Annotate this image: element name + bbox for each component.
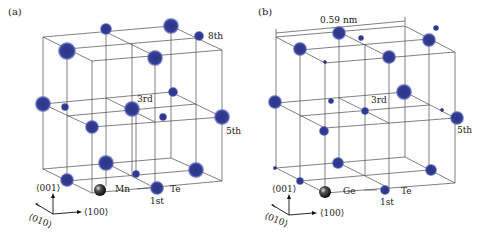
- neighbor-3rd-a: 3rd: [137, 94, 153, 104]
- element-label-te-b: Te: [401, 186, 412, 196]
- atom-density-blob: [168, 87, 178, 97]
- panel-label-b: (b): [258, 6, 272, 17]
- atoms-b: [268, 25, 464, 195]
- atom-density-blob: [450, 111, 464, 125]
- atom-density-blob: [425, 164, 437, 176]
- atom-density-blob: [358, 35, 364, 41]
- axis-label-001-b: ⟨001⟩: [272, 184, 296, 194]
- atom-density-blob: [323, 60, 327, 64]
- atom-density-blob: [194, 31, 204, 41]
- axis-label-010-a: ⟨010⟩: [27, 212, 53, 230]
- atom-density-blob: [433, 25, 439, 31]
- atom-density-blob: [380, 185, 390, 195]
- cell-length-label: 0.59 nm: [320, 15, 358, 25]
- neighbor-5th-a: 5th: [226, 126, 241, 136]
- panel-b: (b) 0.59 nm: [258, 6, 472, 229]
- atom-density-blob: [268, 95, 282, 109]
- neighbor-1st-a: 1st: [150, 196, 164, 206]
- atom-density-blob: [35, 96, 51, 112]
- atom-density-blob: [332, 26, 346, 40]
- atom-density-blob: [132, 170, 140, 178]
- atom-density-blob: [328, 98, 334, 104]
- atom-density-blob: [188, 162, 204, 178]
- axis-label-100-b: ⟨100⟩: [320, 208, 344, 218]
- atom-density-blob: [147, 50, 163, 66]
- figure: (a): [0, 0, 480, 233]
- element-label-te-a: Te: [170, 184, 181, 194]
- atom-density-blob: [214, 109, 230, 125]
- origin-atom-mn: [94, 184, 106, 196]
- atom-density-blob: [163, 18, 179, 34]
- atom-density-blob: [273, 166, 277, 170]
- atom-density-blob: [319, 126, 329, 136]
- atom-density-blob: [382, 50, 396, 64]
- atom-density-blob: [159, 113, 167, 121]
- atom-density-blob: [332, 157, 344, 169]
- atom-density-blob: [361, 107, 369, 115]
- atom-density-blob: [440, 108, 444, 112]
- neighbor-3rd-b: 3rd: [371, 95, 387, 105]
- neighbor-8th-a: 8th: [208, 31, 223, 41]
- axis-label-001-a: ⟨001⟩: [36, 183, 60, 193]
- atom-density-blob: [100, 23, 112, 35]
- atom-density-blob: [85, 120, 99, 134]
- element-label-mn: Mn: [115, 184, 130, 194]
- origin-atom-ge: [319, 186, 331, 198]
- atom-density-blob: [422, 33, 436, 47]
- atom-density-blob: [396, 84, 412, 100]
- axis-label-100-a: ⟨100⟩: [84, 207, 108, 217]
- atom-density-blob: [296, 177, 304, 185]
- atom-density-blob: [98, 155, 114, 171]
- atom-density-blob: [61, 103, 69, 111]
- neighbor-5th-b: 5th: [457, 125, 472, 135]
- atom-density-blob: [293, 42, 307, 56]
- atom-density-blob: [58, 42, 76, 60]
- neighbor-1st-b: 1st: [380, 197, 394, 207]
- element-label-ge: Ge: [343, 186, 356, 196]
- atom-density-blob: [60, 173, 74, 187]
- panel-label-a: (a): [8, 6, 22, 17]
- panel-a: (a): [8, 6, 241, 230]
- atom-density-blob: [150, 181, 164, 195]
- axis-indicator-b: ⟨001⟩ ⟨100⟩ ⟨010⟩: [263, 184, 344, 229]
